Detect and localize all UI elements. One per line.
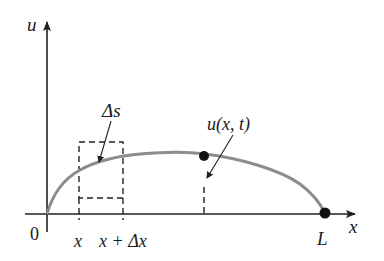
origin-label: 0: [30, 225, 39, 243]
point-on-curve: [199, 151, 209, 161]
point-L: [320, 208, 331, 219]
x-tick-label: x: [74, 232, 82, 250]
x-axis-label: x: [349, 217, 357, 236]
x-plus-dx-tick-label: x + Δx: [99, 232, 147, 250]
wave-string-diagram: u x 0 x x + Δx L Δs u(x, t): [0, 0, 384, 261]
arc-length-label: Δs: [102, 101, 121, 120]
string-curve: [47, 153, 325, 215]
displacement-label: u(x, t): [207, 115, 250, 133]
diagram-canvas: [0, 0, 384, 261]
u-axis-label: u: [27, 15, 37, 34]
arc-element-box: [79, 142, 123, 198]
L-tick-label: L: [317, 229, 328, 248]
